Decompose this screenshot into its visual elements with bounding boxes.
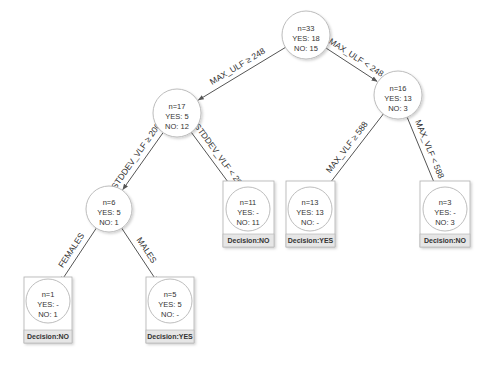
decision-label: Decision:NO <box>424 237 467 244</box>
node-no-count: NO: 12 <box>165 122 189 131</box>
node-no-count: NO: 15 <box>294 44 318 53</box>
node-count: n=11 <box>240 198 256 207</box>
split-node-n16: n=16YES: 13NO: 3 <box>374 71 422 119</box>
node-count: n=16 <box>390 84 407 93</box>
node-count: n=13 <box>302 198 319 207</box>
node-count: n=33 <box>298 24 315 33</box>
edge-root-n17: MAX_ULF ≥ 248 <box>198 46 285 100</box>
edge-n17-n11: STDDEV_VLF < 200 <box>191 122 247 191</box>
node-count: n=1 <box>42 290 55 299</box>
node-yes-count: YES: 5 <box>158 300 181 309</box>
edge-condition-label: MAX_ULF < 248 <box>327 36 386 79</box>
node-yes-count: YES: 5 <box>165 112 188 121</box>
node-count: n=3 <box>439 198 452 207</box>
edge-n6-n5: MALES <box>122 228 159 282</box>
leaf-node-n13: Decision:YESn=13YES: 13NO: - <box>286 181 335 247</box>
node-yes-count: YES: - <box>37 300 59 309</box>
node-yes-count: YES: 13 <box>296 208 324 217</box>
node-yes-count: YES: 13 <box>384 94 412 103</box>
edge-condition-label: MALES <box>135 235 159 265</box>
edge-condition-label: STDDEV_VLF ≥ 200 <box>109 121 163 191</box>
edge-condition-label: MAX_ULF ≥ 248 <box>208 46 267 87</box>
node-count: n=5 <box>164 290 177 299</box>
decision-label: Decision:YES <box>147 333 193 340</box>
decision-label: Decision:NO <box>227 237 270 244</box>
edge-n16-n3: MAX_VLF < 588 <box>407 117 446 188</box>
edge-root-n16: MAX_ULF < 248 <box>326 36 386 81</box>
decision-tree-diagram: MAX_ULF ≥ 248MAX_ULF < 248STDDEV_VLF ≥ 2… <box>0 0 494 365</box>
split-node-root: n=33YES: 18NO: 15 <box>282 11 330 59</box>
node-no-count: NO: 3 <box>435 218 455 227</box>
edge-condition-label: STDDEV_VLF < 200 <box>192 122 247 191</box>
edge-n6-n1: FEMALES <box>56 228 96 282</box>
node-yes-count: YES: - <box>434 208 456 217</box>
node-no-count: NO: 1 <box>99 218 119 227</box>
leaf-node-n1: Decision:NOn=1YES: -NO: 1 <box>24 277 72 343</box>
leaf-node-n3: Decision:NOn=3YES: -NO: 3 <box>420 181 470 247</box>
edge-arrow <box>198 47 285 100</box>
edge-arrow <box>324 114 383 191</box>
edge-n16-n13: MAX_VLF ≥ 588 <box>324 114 384 191</box>
node-count: n=6 <box>103 198 116 207</box>
split-node-n17: n=17YES: 5NO: 12 <box>153 89 201 137</box>
node-no-count: NO: - <box>161 310 179 319</box>
split-node-n6: n=6YES: 5NO: 1 <box>86 186 132 232</box>
decision-label: Decision:YES <box>288 237 334 244</box>
node-yes-count: YES: 18 <box>292 34 320 43</box>
node-no-count: NO: 1 <box>38 310 58 319</box>
node-no-count: NO: 3 <box>388 104 408 113</box>
node-yes-count: YES: 5 <box>97 208 120 217</box>
node-no-count: NO: 11 <box>236 218 259 227</box>
leaf-node-n11: Decision:NOn=11YES: -NO: 11 <box>223 181 274 247</box>
node-no-count: NO: - <box>301 218 319 227</box>
node-count: n=17 <box>169 102 186 111</box>
edge-n17-n6: STDDEV_VLF ≥ 200 <box>109 121 163 191</box>
decision-label: Decision:NO <box>27 333 70 340</box>
leaf-node-n5: Decision:YESn=5YES: 5NO: - <box>146 277 194 343</box>
edge-condition-label: MAX_VLF ≥ 588 <box>324 119 370 175</box>
node-yes-count: YES: - <box>237 208 259 217</box>
